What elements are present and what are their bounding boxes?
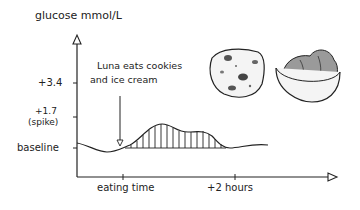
chart-title: glucose mmol/L [35, 9, 122, 22]
y-tick-top: +3.4 [38, 77, 62, 88]
eating-arrow-head-icon [117, 140, 123, 146]
glucose-diagram [0, 0, 360, 210]
y-tick-mid-note: (spike) [28, 117, 58, 127]
y-axis-arrow-icon [73, 35, 81, 44]
annotation-line1: Luna eats cookies [97, 60, 182, 71]
cookie-icon [210, 49, 264, 97]
ice-cream-bowl-icon [276, 50, 340, 102]
annotation-line2: and ice cream [90, 74, 157, 85]
x-tick-eating-time: eating time [97, 182, 154, 193]
y-tick-baseline: baseline [17, 142, 59, 153]
x-axis-arrow-icon [328, 173, 337, 181]
y-tick-mid: +1.7 [35, 106, 57, 116]
spike-hatching [131, 124, 221, 148]
x-tick-two-hours: +2 hours [207, 182, 253, 193]
